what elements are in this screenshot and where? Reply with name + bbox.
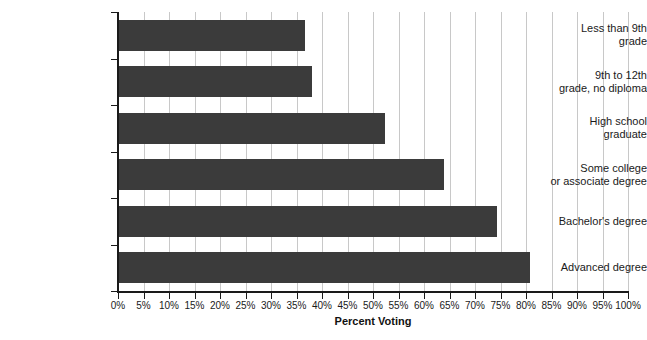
- category-label: Less than 9thgrade: [535, 22, 647, 48]
- x-axis-tick-label: 95%: [592, 300, 612, 312]
- gridline: [144, 12, 145, 291]
- x-axis-tick-label: 40%: [312, 300, 332, 312]
- x-axis-tick: [552, 293, 553, 299]
- x-axis-tick-label: 5%: [136, 300, 150, 312]
- x-axis-tick-label: 0%: [111, 300, 125, 312]
- category-label-line: Less than 9th: [535, 22, 647, 35]
- category-label: 9th to 12thgrade, no diploma: [535, 69, 647, 95]
- plot-area: [118, 12, 628, 291]
- y-axis-tick: [111, 198, 118, 199]
- gridline: [322, 12, 323, 291]
- gridline: [246, 12, 247, 291]
- category-label-line: Advanced degree: [535, 261, 647, 274]
- category-label: Some collegeor associate degree: [535, 162, 647, 188]
- gridline: [501, 12, 502, 291]
- gridline: [169, 12, 170, 291]
- gridline: [450, 12, 451, 291]
- x-axis-tick-label: 45%: [337, 300, 357, 312]
- x-axis-tick-label: 55%: [388, 300, 408, 312]
- bar: [118, 113, 385, 144]
- bar: [118, 159, 444, 190]
- x-axis-tick-label: 50%: [363, 300, 383, 312]
- x-axis-tick: [297, 293, 298, 299]
- x-axis-tick-label: 20%: [210, 300, 230, 312]
- y-axis-tick: [111, 245, 118, 246]
- x-axis-tick: [450, 293, 451, 299]
- x-axis-tick: [271, 293, 272, 299]
- gridline: [603, 12, 604, 291]
- y-axis-tick: [111, 105, 118, 106]
- x-axis-tick-label: 75%: [490, 300, 510, 312]
- x-axis-tick: [348, 293, 349, 299]
- gridline: [424, 12, 425, 291]
- category-label-line: grade, no diploma: [535, 82, 647, 95]
- x-axis-tick: [169, 293, 170, 299]
- y-axis-tick: [111, 291, 118, 292]
- y-axis-tick: [111, 12, 118, 13]
- x-axis-tick-label: 80%: [516, 300, 536, 312]
- x-axis-tick-label: 35%: [286, 300, 306, 312]
- x-axis-tick: [475, 293, 476, 299]
- category-label-line: High school: [535, 115, 647, 128]
- x-axis-title: Percent Voting: [118, 315, 628, 327]
- x-axis-tick: [322, 293, 323, 299]
- bar: [118, 20, 305, 51]
- category-label: Advanced degree: [535, 261, 647, 274]
- x-axis-tick: [577, 293, 578, 299]
- y-axis-tick: [111, 59, 118, 60]
- x-axis-tick: [246, 293, 247, 299]
- gridline: [220, 12, 221, 291]
- category-label: Bachelor's degree: [535, 215, 647, 228]
- x-axis-tick: [501, 293, 502, 299]
- x-axis-tick: [220, 293, 221, 299]
- gridline: [526, 12, 527, 291]
- category-label-line: graduate: [535, 128, 647, 141]
- x-axis-tick-label: 65%: [439, 300, 459, 312]
- category-label-line: Some college: [535, 162, 647, 175]
- gridline: [348, 12, 349, 291]
- gridline: [297, 12, 298, 291]
- bar: [118, 252, 530, 283]
- category-label-line: Bachelor's degree: [535, 215, 647, 228]
- gridline: [552, 12, 553, 291]
- y-axis-tick: [111, 152, 118, 153]
- category-label-line: 9th to 12th: [535, 69, 647, 82]
- x-axis-tick: [628, 293, 629, 299]
- gridline: [399, 12, 400, 291]
- gridline: [475, 12, 476, 291]
- gridline: [628, 12, 629, 291]
- bar: [118, 206, 497, 237]
- x-axis-tick-label: 15%: [184, 300, 204, 312]
- category-label-line: grade: [535, 35, 647, 48]
- x-axis-tick: [526, 293, 527, 299]
- gridline: [577, 12, 578, 291]
- x-axis-tick: [373, 293, 374, 299]
- x-axis-tick-label: 25%: [235, 300, 255, 312]
- category-label: High schoolgraduate: [535, 115, 647, 141]
- gridline: [195, 12, 196, 291]
- gridline: [271, 12, 272, 291]
- x-axis-tick: [399, 293, 400, 299]
- x-axis-tick-label: 10%: [159, 300, 179, 312]
- x-axis-tick-label: 100%: [615, 300, 641, 312]
- bar-chart: 0%5%10%15%20%25%30%35%40%45%50%55%60%65%…: [0, 0, 647, 340]
- x-axis-tick: [424, 293, 425, 299]
- x-axis-tick: [195, 293, 196, 299]
- x-axis-tick-label: 60%: [414, 300, 434, 312]
- x-axis-tick: [603, 293, 604, 299]
- x-axis-tick-label: 70%: [465, 300, 485, 312]
- category-label-line: or associate degree: [535, 175, 647, 188]
- x-axis-tick-label: 30%: [261, 300, 281, 312]
- gridline: [373, 12, 374, 291]
- x-axis-tick-label: 85%: [541, 300, 561, 312]
- x-axis-tick: [118, 293, 119, 299]
- bar: [118, 66, 312, 97]
- x-axis-tick: [144, 293, 145, 299]
- x-axis-tick-label: 90%: [567, 300, 587, 312]
